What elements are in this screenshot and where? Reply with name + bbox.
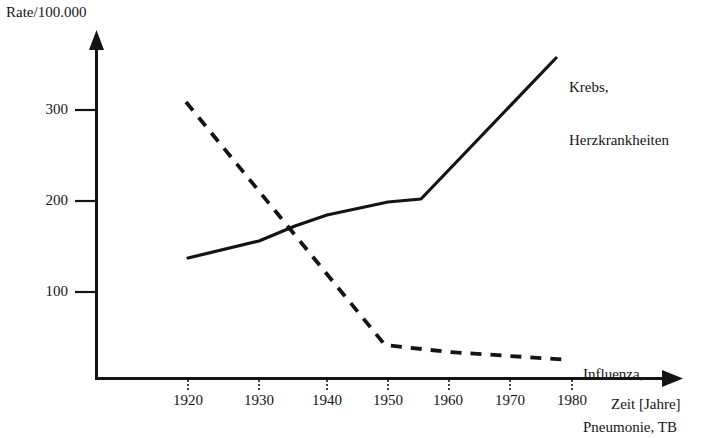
x-tick-label-1940: 1940 [304,392,350,410]
x-tick-label-1950: 1950 [365,392,411,410]
series-label-influenza-line2: Pneumonie, TB [583,419,677,437]
series-label-krebs-line1: Krebs, [569,79,669,97]
x-axis-ticks [188,380,572,391]
y-axis [89,30,104,378]
series-label-krebs: Krebs, Herzkrankheiten [569,44,669,186]
series-line-krebs [188,58,556,258]
series-label-krebs-line2: Herzkrankheiten [569,132,669,150]
x-tick-label-1920: 1920 [165,392,211,410]
y-axis-ticks [75,110,96,292]
series-label-influenza: Influenza, Pneumonie, TB [583,331,677,438]
x-tick-label-1930: 1930 [236,392,282,410]
y-tick-label-200: 200 [22,192,68,210]
x-tick-label-1960: 1960 [425,392,471,410]
y-axis-arrow-icon [89,30,104,50]
y-axis-title: Rate/100.000 [6,4,86,22]
y-tick-label-100: 100 [22,283,68,301]
y-tick-label-300: 300 [22,101,68,119]
x-tick-label-1970: 1970 [487,392,533,410]
series-label-influenza-line1: Influenza, [583,366,677,384]
series-line-influenza [186,102,570,360]
